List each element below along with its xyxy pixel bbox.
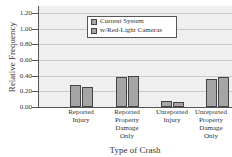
y-tick-label: 0.00 <box>8 103 32 111</box>
legend-item-current: Current System <box>88 17 176 26</box>
bar-current-system <box>161 101 172 107</box>
y-tick-label: 0.20 <box>8 87 32 95</box>
bar-red-light-cameras <box>173 102 184 107</box>
legend-label: Current System <box>100 17 144 26</box>
legend-label: w/Red-Light Cameras <box>100 26 162 35</box>
bar-red-light-cameras <box>218 77 229 107</box>
legend-swatch-icon <box>91 28 97 34</box>
bar-current-system <box>206 79 217 107</box>
gridline <box>39 44 232 45</box>
bar-current-system <box>116 77 127 107</box>
x-category-label: UnreportedInjury <box>150 108 194 124</box>
x-category-label: UnreportedPropertyDamageOnly <box>189 108 232 140</box>
y-tick-label: 1.00 <box>8 25 32 33</box>
x-axis-label: Type of Crash <box>0 145 232 155</box>
y-tick-label: 1.20 <box>8 9 32 17</box>
legend-item-cameras: w/Red-Light Cameras <box>88 26 176 35</box>
y-tick-label: 0.80 <box>8 40 32 48</box>
plot-area: Current System w/Red-Light Cameras <box>38 6 232 108</box>
legend-swatch-icon <box>91 19 97 25</box>
x-category-label: ReportedPropertyDamageOnly <box>105 108 149 140</box>
legend: Current System w/Red-Light Cameras <box>87 16 177 38</box>
bar-red-light-cameras <box>128 76 139 107</box>
y-tick-label: 0.40 <box>8 72 32 80</box>
y-tick-label: 0.60 <box>8 56 32 64</box>
gridline <box>39 13 232 14</box>
bar-current-system <box>70 85 81 107</box>
x-category-label: ReportedInjury <box>59 108 103 124</box>
bar-red-light-cameras <box>82 87 93 107</box>
gridline <box>39 60 232 61</box>
